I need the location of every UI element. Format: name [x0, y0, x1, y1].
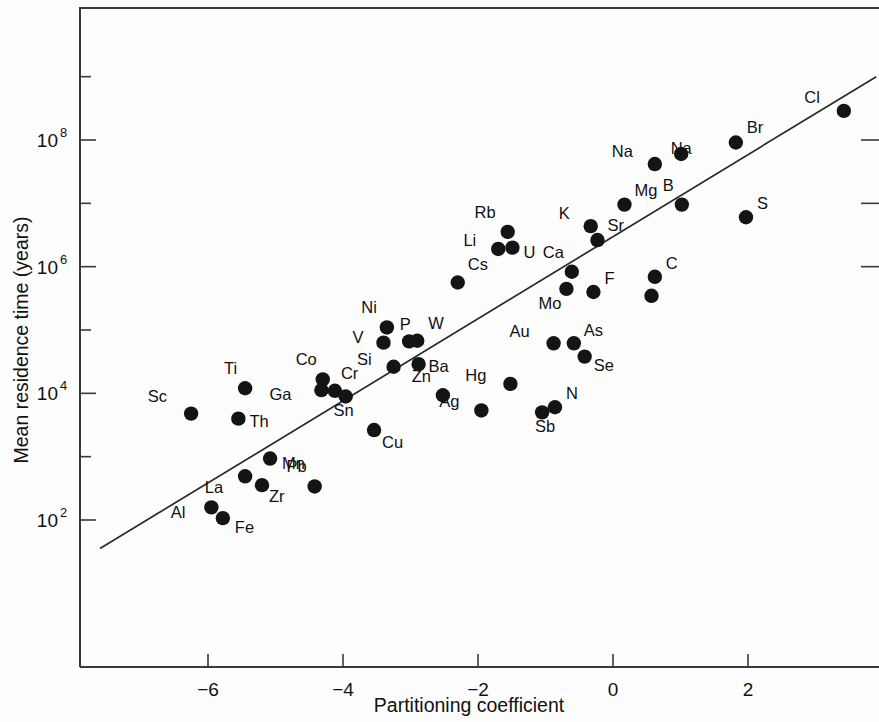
data-point-label: Ga: [269, 385, 292, 403]
data-point: Na: [612, 142, 662, 171]
data-point: Mg: [617, 181, 657, 212]
data-point-marker: [586, 285, 600, 299]
y-axis-title: Mean residence time (years): [10, 216, 32, 463]
data-points: ScTiThCoGaCrSnCuMnLaZrPbAlFeNiVPWSiBaZnC…: [148, 88, 851, 536]
data-point-label: Mg: [634, 181, 657, 199]
data-point: Ni: [361, 298, 394, 334]
data-point: K: [559, 204, 598, 233]
data-point-label: K: [559, 204, 570, 222]
y-tick-labels: 102104106108: [37, 125, 67, 531]
data-point-label: Cs: [468, 255, 488, 273]
data-point-marker: [584, 219, 598, 233]
data-point-label: Se: [594, 356, 614, 374]
data-point-marker: [617, 197, 631, 211]
data-point: F: [586, 269, 614, 299]
y-tick-label: 102: [37, 505, 67, 531]
data-point-label: Cu: [382, 433, 403, 451]
data-point: Na: [671, 139, 693, 161]
svg-text:8: 8: [60, 125, 67, 140]
data-point-marker: [410, 334, 424, 348]
data-point-marker: [548, 400, 562, 414]
data-point-label: Na: [671, 139, 693, 157]
svg-text:10: 10: [37, 383, 58, 404]
svg-text:10: 10: [37, 130, 58, 151]
data-point-marker: [675, 197, 689, 211]
data-point: Mo: [539, 282, 574, 312]
data-point: Fe: [216, 511, 254, 536]
x-tick-label: −4: [332, 679, 354, 700]
data-point-label: La: [205, 478, 224, 496]
data-point-label: C: [666, 254, 678, 272]
data-point-label: N: [566, 384, 578, 402]
data-point-label: W: [428, 314, 444, 332]
x-tick-label: −6: [197, 679, 219, 700]
data-point-marker: [648, 270, 662, 284]
data-point: N: [548, 384, 578, 414]
data-point: Co: [296, 350, 330, 386]
data-point-label: Pb: [286, 457, 306, 475]
data-point: Si: [357, 350, 401, 374]
data-point: Se: [577, 349, 613, 373]
data-point: Li: [463, 231, 505, 256]
data-point: Cs: [451, 255, 488, 289]
y-tick-label: 104: [37, 378, 67, 404]
data-point-label: As: [584, 321, 603, 339]
data-point-label: Co: [296, 350, 317, 368]
data-point-marker: [216, 511, 230, 525]
data-point-label: Br: [747, 118, 764, 136]
data-point-marker: [238, 381, 252, 395]
data-point: Rb: [475, 203, 515, 239]
data-point-marker: [184, 406, 198, 420]
data-point-marker: [644, 289, 658, 303]
x-axis-title: Partitioning coefficient: [374, 694, 565, 716]
data-point: S: [739, 194, 768, 224]
data-point-marker: [204, 500, 218, 514]
data-point-marker: [739, 210, 753, 224]
data-point: Sc: [148, 387, 198, 421]
data-point: Th: [231, 411, 268, 429]
data-point-marker: [238, 469, 252, 483]
data-point-label: Si: [357, 350, 372, 368]
data-point: Cu: [367, 423, 403, 451]
data-point-marker: [367, 423, 381, 437]
data-point-label: S: [757, 194, 768, 212]
data-point-label: Th: [249, 412, 268, 430]
data-point-label: Na: [612, 142, 634, 160]
data-point-label: U: [523, 243, 535, 261]
data-point: Hg: [465, 366, 517, 391]
data-point-label: Au: [509, 322, 529, 340]
data-point-marker: [255, 478, 269, 492]
data-point-marker: [451, 275, 465, 289]
svg-text:6: 6: [60, 252, 67, 267]
data-point-label: Cl: [804, 88, 820, 106]
data-point-label: Fe: [235, 518, 254, 536]
x-axis-ticks: [208, 654, 748, 667]
data-point-marker: [474, 403, 488, 417]
data-point-label: Rb: [475, 203, 496, 221]
x-tick-label: 0: [608, 679, 619, 700]
data-point-label: Ni: [361, 298, 377, 316]
plot-frame: [80, 8, 879, 667]
data-point: C: [648, 254, 678, 284]
chart-canvas: ScTiThCoGaCrSnCuMnLaZrPbAlFeNiVPWSiBaZnC…: [0, 0, 879, 722]
data-point-marker: [380, 320, 394, 334]
data-point-label: Mo: [539, 294, 562, 312]
data-point-label: Ba: [429, 357, 450, 375]
data-point-marker: [565, 265, 579, 279]
data-point: Ag: [439, 392, 488, 417]
data-point-label: B: [663, 176, 674, 194]
data-point: [644, 289, 658, 303]
data-point: U: [505, 240, 535, 260]
data-point-marker: [314, 383, 328, 397]
data-point: Ti: [224, 359, 252, 395]
data-point: Cl: [804, 88, 851, 118]
data-point-label: Ca: [543, 243, 565, 261]
scatter-chart-figure: ScTiThCoGaCrSnCuMnLaZrPbAlFeNiVPWSiBaZnC…: [0, 0, 879, 722]
data-point-label: P: [400, 315, 411, 333]
data-point: Au: [509, 322, 560, 350]
data-point: Br: [729, 118, 764, 150]
data-point-label: F: [604, 269, 614, 287]
data-point-label: Li: [463, 231, 476, 249]
data-point-label: Sc: [148, 387, 167, 405]
data-point-label: Zr: [269, 487, 285, 505]
